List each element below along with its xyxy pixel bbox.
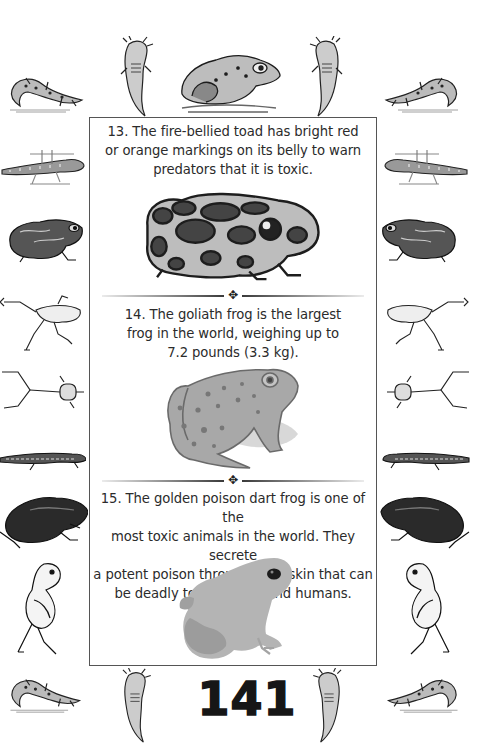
divider-line-left (102, 480, 224, 482)
fact-14-text: 14. The goliath frog is the largest frog… (96, 305, 370, 362)
salamander-illustration-bottom-right (376, 668, 468, 716)
fact-14-line-2: frog in the world, weighing up to (96, 324, 370, 343)
leaping-frog-illustration-right (380, 290, 470, 352)
divider-line-right (242, 295, 364, 297)
divider-line-right (242, 480, 364, 482)
salamander-illustration-top-left (6, 66, 88, 116)
newt-illustration-left (0, 140, 86, 190)
fact-14-line-1: 14. The goliath frog is the largest (96, 305, 370, 324)
section-divider-1: ✥ (102, 291, 364, 301)
goliath-frog-illustration (158, 364, 308, 472)
spotted-toad-illustration (134, 186, 326, 284)
axolotl-illustration-top-right (306, 36, 348, 118)
content-frame: 13. The fire-bellied toad has bright red… (89, 117, 377, 666)
toad-illustration-left (4, 212, 86, 264)
fact-13-text: 13. The fire-bellied toad has bright red… (96, 122, 370, 179)
fact-14-line-3: 7.2 pounds (3.3 kg). (96, 343, 370, 362)
sitting-frog-illustration-left (14, 560, 74, 656)
axolotl-illustration-bottom-left (114, 668, 156, 744)
leaping-frog-illustration-left (0, 290, 86, 352)
salamander-illustration-bottom-left (4, 668, 88, 716)
divider-line-left (102, 295, 224, 297)
lizard-newt-illustration-right (378, 446, 474, 472)
section-divider-2: ✥ (102, 476, 364, 486)
dark-toad-illustration-right (378, 492, 472, 550)
newt-illustration-right (378, 140, 474, 190)
poison-dart-frog-illustration (170, 554, 298, 662)
fact-15-line-1: 15. The golden poison dart frog is one o… (92, 489, 374, 527)
toad-illustration-right (378, 212, 462, 264)
book-page: 13. The fire-bellied toad has bright red… (0, 0, 495, 744)
fact-13-line-3: predators that it is toxic. (96, 160, 370, 179)
fact-13-line-1: 13. The fire-bellied toad has bright red (96, 122, 370, 141)
axolotl-illustration-top-left (115, 36, 157, 118)
fact-13-line-2: or orange markings on its belly to warn (96, 141, 370, 160)
salamander-illustration-top-right (376, 66, 466, 116)
frog-skeleton-illustration-left (0, 368, 86, 416)
dark-toad-illustration-left (0, 492, 88, 550)
divider-ornament-icon: ✥ (228, 288, 238, 302)
lizard-newt-illustration-left (0, 446, 86, 472)
divider-ornament-icon: ✥ (228, 473, 238, 487)
bullfrog-illustration-top (176, 44, 288, 116)
frog-skeleton-illustration-right (380, 368, 476, 416)
sitting-frog-illustration-right (392, 560, 454, 656)
page-number: 141 (170, 671, 324, 727)
